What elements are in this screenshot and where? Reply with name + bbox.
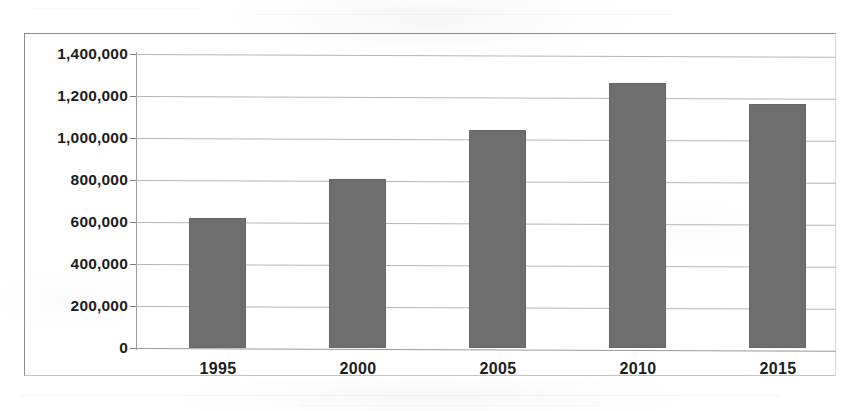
bar-2015[interactable] xyxy=(749,104,806,348)
y-tick-mark xyxy=(130,180,136,181)
x-tick-label: 2000 xyxy=(340,360,377,378)
x-tick-label: 1995 xyxy=(200,360,237,378)
y-tick-label: 0 xyxy=(24,339,128,357)
y-tick-label: 1,000,000 xyxy=(24,129,128,147)
bar-1995[interactable] xyxy=(189,218,246,348)
y-tick-mark xyxy=(130,222,136,223)
y-tick-mark xyxy=(130,138,136,139)
scan-artifact-line xyxy=(300,405,600,406)
scan-artifact-line xyxy=(20,395,780,396)
y-tick-label: 400,000 xyxy=(24,255,128,273)
bar-2005[interactable] xyxy=(469,130,526,348)
y-tick-mark xyxy=(130,306,136,307)
bar-2010[interactable] xyxy=(609,83,666,348)
y-tick-label: 200,000 xyxy=(24,297,128,315)
x-tick-label: 2010 xyxy=(620,360,657,378)
scan-artifact-line xyxy=(255,14,675,15)
plot-area xyxy=(136,54,836,348)
y-tick-mark xyxy=(130,348,136,349)
y-tick-label: 1,200,000 xyxy=(24,87,128,105)
gridline xyxy=(136,54,836,58)
bar-2000[interactable] xyxy=(329,179,386,348)
y-tick-label: 800,000 xyxy=(24,171,128,189)
gridline xyxy=(136,96,836,100)
x-tick-label: 2005 xyxy=(480,360,517,378)
y-tick-label: 1,400,000 xyxy=(24,45,128,63)
y-tick-label: 600,000 xyxy=(24,213,128,231)
y-tick-mark xyxy=(130,264,136,265)
y-tick-mark xyxy=(130,96,136,97)
x-tick-label: 2015 xyxy=(760,360,797,378)
y-tick-mark xyxy=(130,54,136,55)
y-axis-tick-labels: 1,400,000 1,200,000 1,000,000 800,000 60… xyxy=(20,0,128,411)
